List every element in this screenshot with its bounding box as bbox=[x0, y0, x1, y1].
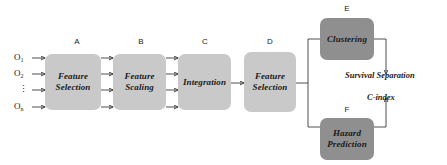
input-label-on: On bbox=[14, 101, 24, 111]
node-c-line1: Integration bbox=[183, 77, 226, 87]
node-a-line1: Feature bbox=[58, 71, 88, 81]
node-b-line1: Feature bbox=[124, 71, 154, 81]
node-feature-selection-a[interactable]: Feature Selection bbox=[45, 54, 101, 110]
node-feature-scaling-b[interactable]: Feature Scaling bbox=[113, 54, 166, 110]
metric-survival-separation: Survival Separation bbox=[345, 70, 415, 80]
node-integration-c[interactable]: Integration bbox=[178, 54, 231, 110]
node-d-line2: Selection bbox=[253, 82, 288, 92]
input-ellipsis: ⋮ bbox=[19, 85, 28, 94]
node-tag-b: B bbox=[122, 37, 160, 46]
node-b-line2: Scaling bbox=[125, 82, 154, 92]
node-tag-f: F bbox=[328, 105, 366, 114]
node-tag-e: E bbox=[328, 4, 366, 13]
node-f-line2: Prediction bbox=[327, 139, 367, 149]
node-e-line1: Clustering bbox=[327, 34, 367, 44]
node-tag-c: C bbox=[186, 37, 224, 46]
node-clustering-e[interactable]: Clustering bbox=[320, 18, 374, 60]
metric-c-index: C-index bbox=[367, 92, 395, 102]
node-tag-d: D bbox=[251, 37, 289, 46]
input-label-o1: O1 bbox=[14, 52, 24, 62]
node-f-line1: Hazard bbox=[333, 128, 361, 138]
node-feature-selection-d[interactable]: Feature Selection bbox=[244, 52, 296, 112]
node-a-line2: Selection bbox=[56, 82, 91, 92]
input-label-o2: O2 bbox=[14, 68, 24, 78]
node-d-line1: Feature bbox=[255, 71, 285, 81]
pipeline-diagram: O1 O2 ⋮ On A Feature Selection B Feature… bbox=[0, 0, 447, 165]
node-hazard-prediction-f[interactable]: Hazard Prediction bbox=[320, 118, 374, 160]
node-tag-a: A bbox=[58, 37, 96, 46]
